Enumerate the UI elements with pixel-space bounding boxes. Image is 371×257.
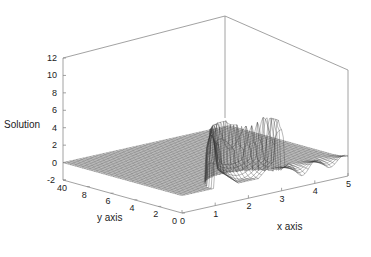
x-tick-label: 1: [213, 210, 218, 219]
z-tick-label: 8: [52, 89, 57, 98]
y-tick-label: 0: [172, 217, 177, 226]
z-tick-label: 6: [52, 106, 57, 115]
y-tick-label: 2: [153, 210, 158, 219]
z-tick-label: 12: [47, 54, 57, 63]
x-tick-label: 0: [180, 217, 185, 226]
y-tick-label: 4: [129, 204, 134, 213]
z-axis-label: Solution: [4, 120, 40, 130]
y-axis-label: y axis: [97, 213, 123, 223]
wireframe-mesh: [63, 118, 348, 196]
x-tick-label: 5: [346, 180, 351, 189]
z-tick-label: 10: [47, 71, 57, 80]
z-tick-label: 4: [52, 124, 57, 133]
x-tick-label: 2: [246, 202, 251, 211]
x-tick-label: 4: [313, 187, 318, 196]
z-tick-label: -2: [47, 176, 55, 185]
y-tick-label: 8: [82, 191, 87, 200]
z-tick-label: 2: [52, 141, 57, 150]
x-axis-label: x axis: [277, 222, 303, 232]
y-tick-label: 6: [106, 197, 111, 206]
y-tick-label: 40: [57, 184, 67, 193]
z-tick-label: 0: [52, 159, 57, 168]
x-tick-label: 3: [280, 195, 285, 204]
